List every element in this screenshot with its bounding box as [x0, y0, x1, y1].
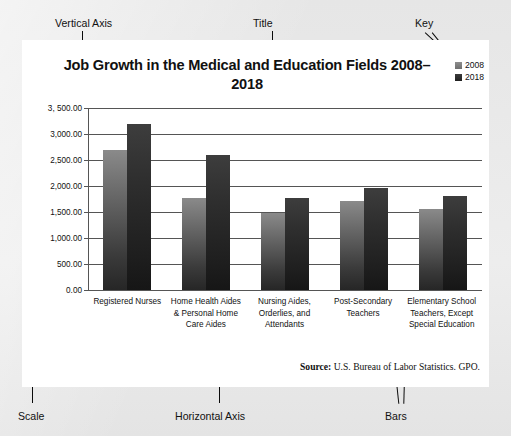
bar-2018[interactable] [364, 188, 388, 290]
legend-item-2018[interactable]: 2018 [455, 72, 484, 82]
annotation-vertical-axis: Vertical Axis [55, 17, 112, 29]
bar-2018[interactable] [443, 196, 467, 290]
annotation-bars: Bars [385, 410, 407, 422]
x-axis-category-labels: Registered NursesHome Health Aides & Per… [88, 296, 481, 331]
legend-label-2018: 2018 [465, 72, 484, 82]
y-axis-tick-label: 1,000.00 [50, 234, 82, 243]
category-label: Registered Nurses [88, 296, 167, 331]
source-note-label: Source: [300, 361, 331, 372]
y-axis-tick-label: 500.00 [57, 260, 82, 269]
source-note-text: U.S. Bureau of Labor Statistics. GPO. [331, 361, 480, 372]
annotation-horizontal-axis: Horizontal Axis [175, 410, 245, 422]
category-label: Post-Secondary Teachers [324, 296, 403, 331]
y-axis-tick-label: 1,500.00 [50, 208, 82, 217]
bar-2008[interactable] [182, 198, 206, 290]
axes [88, 108, 482, 290]
gridline [88, 290, 482, 291]
chart-title: Job Growth in the Medical and Education … [52, 56, 442, 95]
bars-layer [88, 108, 482, 290]
bar-2008[interactable] [419, 209, 443, 290]
category-label: Elementary School Teachers, Except Speci… [402, 296, 481, 331]
legend-label-2008: 2008 [465, 60, 484, 70]
bar-group [403, 108, 482, 290]
annotation-scale: Scale [18, 410, 45, 422]
bar-2018[interactable] [206, 155, 230, 290]
bar-group [167, 108, 246, 290]
y-axis-tick-labels: 0.00500.001,000.001,500.002,000.002,500.… [30, 108, 86, 290]
y-axis-tick-label: 2,500.00 [50, 156, 82, 165]
category-label: Nursing Aides, Orderlies, and Attendants [245, 296, 324, 331]
legend-swatch-2008-icon [455, 62, 462, 69]
bar-2018[interactable] [285, 198, 309, 290]
y-axis-tick-label: 3,000.00 [50, 130, 82, 139]
chart-panel: Job Growth in the Medical and Education … [22, 40, 489, 387]
bar-group [246, 108, 325, 290]
y-axis-tick-label: 2,000.00 [50, 182, 82, 191]
category-label: Home Health Aides & Personal Home Care A… [167, 296, 246, 331]
plot-area: 0.00500.001,000.001,500.002,000.002,500.… [30, 108, 482, 298]
chart-legend: 2008 2018 [455, 60, 484, 82]
bar-2008[interactable] [261, 213, 285, 290]
y-axis-tick [84, 290, 88, 291]
bar-2018[interactable] [127, 124, 151, 290]
source-note: Source: U.S. Bureau of Labor Statistics.… [300, 361, 480, 372]
bar-group [88, 108, 167, 290]
legend-item-2008[interactable]: 2008 [455, 60, 484, 70]
bar-2008[interactable] [340, 201, 364, 290]
y-axis-tick-label: 0.00 [66, 286, 82, 295]
bar-group [324, 108, 403, 290]
bar-2008[interactable] [103, 150, 127, 290]
y-axis-tick-label: 3, 500.00 [48, 104, 82, 113]
annotation-key: Key [415, 17, 433, 29]
legend-swatch-2018-icon [455, 74, 462, 81]
annotation-title: Title [253, 17, 273, 29]
